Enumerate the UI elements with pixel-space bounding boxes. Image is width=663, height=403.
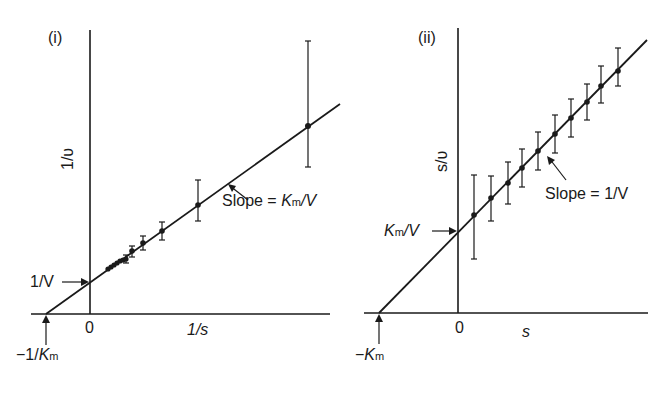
panel-i-label: (i) [48, 30, 62, 46]
panel-ii-label: (ii) [418, 30, 436, 46]
panel-ii-slope-label: Slope = 1/V [545, 186, 628, 202]
panel-i-y-intercept-label: 1/V [30, 274, 54, 290]
panel-ii-origin-label: 0 [455, 320, 464, 336]
panel-i-y-axis-label: 1/υ [60, 148, 76, 170]
panel-i-origin-label: 0 [85, 320, 94, 336]
panel-i-x-axis-label: 1/s [187, 322, 208, 338]
panel-ii-error-bars [471, 48, 621, 259]
arrowhead-icon [228, 184, 236, 192]
panel-ii-x-axis-label: s [522, 324, 530, 340]
panel-i-error-bars [123, 41, 311, 263]
panel-ii-y-axis-label: s/υ [434, 151, 450, 172]
arrowhead-icon [42, 315, 50, 323]
panel-i-x-intercept-label: −1/Km [16, 347, 59, 363]
panel-i-slope-label: Slope = Km/V [222, 193, 316, 209]
panel-ii-fit-line [379, 40, 647, 313]
panel-ii-y-intercept-label: Km/V [384, 223, 419, 239]
arrowhead-icon [375, 314, 383, 322]
panel-ii-x-intercept-label: −Km [355, 347, 384, 363]
